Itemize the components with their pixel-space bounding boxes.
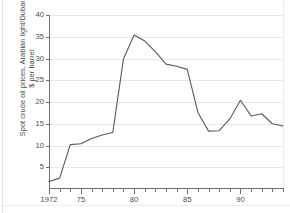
plot-area: 510152025303540 197275808590 xyxy=(49,15,283,189)
x-tick-label-1980: 80 xyxy=(130,195,138,204)
chart-page: Spot crude oil prices, Arabian light/Dub… xyxy=(0,0,290,213)
y-axis-label: Spot crude oil prices, Arabian light/Dub… xyxy=(19,0,36,159)
x-tick-label-1990: 90 xyxy=(236,195,244,204)
y-tick-label-30: 30 xyxy=(36,54,44,63)
x-tick-mark-1994 xyxy=(283,188,284,192)
x-tick-label-1972: 1972 xyxy=(41,195,58,204)
y-tick-label-5: 5 xyxy=(40,162,44,171)
y-tick-label-15: 15 xyxy=(36,119,44,128)
y-axis-label-line1: Spot crude oil prices, Arabian light/Dub… xyxy=(18,1,27,136)
y-tick-label-35: 35 xyxy=(36,32,44,41)
page-edge-artifact-bottom xyxy=(0,205,290,206)
x-tick-label-1985: 85 xyxy=(183,195,191,204)
page-edge-artifact-right xyxy=(283,0,284,190)
y-tick-label-40: 40 xyxy=(36,10,44,19)
page-edge-artifact-left xyxy=(2,0,3,213)
y-tick-label-10: 10 xyxy=(36,141,44,150)
oil-price-line xyxy=(49,35,283,182)
y-tick-label-25: 25 xyxy=(36,75,44,84)
y-tick-label-20: 20 xyxy=(36,97,44,106)
x-tick-label-1975: 75 xyxy=(77,195,85,204)
data-line-series xyxy=(49,15,283,189)
